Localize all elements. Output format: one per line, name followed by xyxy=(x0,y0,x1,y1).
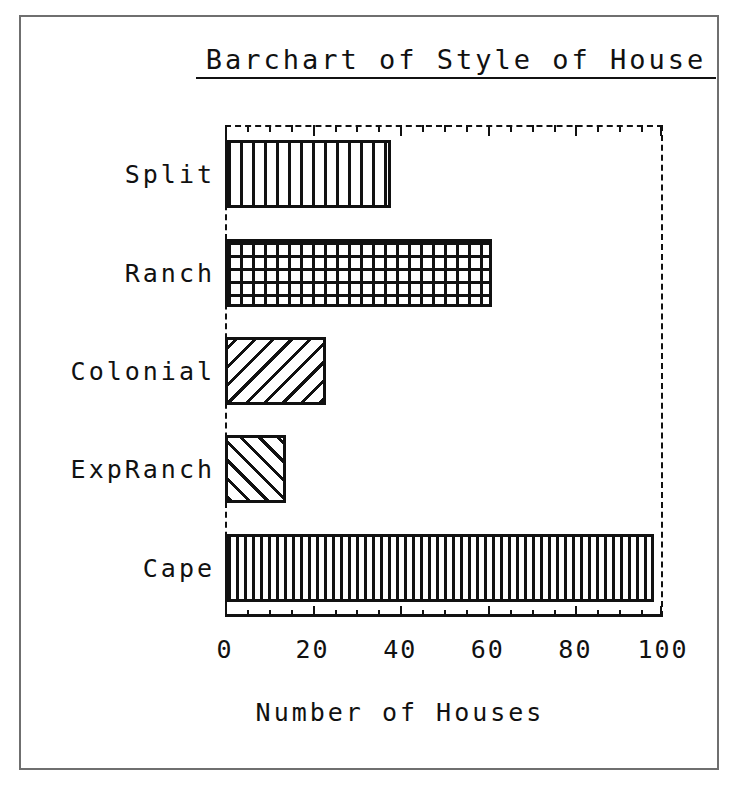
x-tick-minor xyxy=(269,125,271,132)
x-tick-minor xyxy=(554,125,556,132)
x-tick-minor xyxy=(466,125,468,132)
bar-colonial xyxy=(225,337,326,405)
x-tick-minor xyxy=(597,125,599,132)
chart-page: Barchart of Style of House SplitRanchCol… xyxy=(0,0,739,787)
bar-row xyxy=(225,435,663,503)
bar-expranch xyxy=(225,435,286,503)
x-tick-minor xyxy=(378,125,380,132)
x-tick-minor xyxy=(619,125,621,132)
x-axis-title: Number of Houses xyxy=(120,698,680,727)
x-tick-minor xyxy=(532,125,534,132)
x-tick-major xyxy=(400,125,402,136)
x-tick-minor xyxy=(444,125,446,132)
chart-title: Barchart of Style of House xyxy=(196,44,716,79)
x-tick-major xyxy=(660,125,662,136)
x-tick-label: 40 xyxy=(383,635,417,664)
bar-ranch xyxy=(225,239,492,307)
category-label-colonial: Colonial xyxy=(15,357,215,386)
x-tick-minor xyxy=(335,125,337,132)
x-axis-tick-labels: 020406080100 xyxy=(225,635,663,669)
category-axis-labels: SplitRanchColonialExpRanchCape xyxy=(8,125,215,617)
x-tick-label: 60 xyxy=(471,635,505,664)
plot-area xyxy=(225,125,663,617)
x-axis-ticks-top xyxy=(225,125,663,136)
bar-row xyxy=(225,140,663,208)
x-axis-line xyxy=(225,614,663,617)
bar-cape xyxy=(225,534,654,602)
x-tick-major xyxy=(488,125,490,136)
x-tick-major xyxy=(225,125,227,136)
x-tick-major xyxy=(313,125,315,136)
bar-row xyxy=(225,534,663,602)
x-tick-label: 0 xyxy=(216,635,233,664)
category-label-ranch: Ranch xyxy=(15,258,215,287)
x-tick-label: 100 xyxy=(637,635,688,664)
bar-row xyxy=(225,239,663,307)
category-label-split: Split xyxy=(15,160,215,189)
x-tick-minor xyxy=(641,125,643,132)
x-tick-major xyxy=(575,125,577,136)
bar-split xyxy=(225,140,391,208)
x-tick-minor xyxy=(356,125,358,132)
category-label-expranch: ExpRanch xyxy=(15,455,215,484)
bar-row xyxy=(225,337,663,405)
x-tick-label: 80 xyxy=(558,635,592,664)
x-tick-minor xyxy=(422,125,424,132)
x-tick-minor xyxy=(291,125,293,132)
x-tick-minor xyxy=(247,125,249,132)
x-tick-label: 20 xyxy=(296,635,330,664)
x-tick-minor xyxy=(510,125,512,132)
category-label-cape: Cape xyxy=(15,553,215,582)
